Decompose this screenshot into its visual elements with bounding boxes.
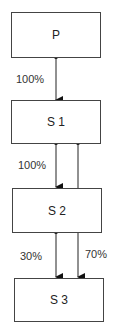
edge-label-s2-s3: 30% (20, 250, 42, 262)
node-s3-label: S 3 (50, 293, 68, 307)
node-s3: S 3 (14, 278, 104, 322)
node-p: P (11, 12, 101, 58)
edge-label-p-s1: 100% (16, 73, 44, 85)
edge-label-s1-s3: 70% (85, 248, 107, 260)
node-s2: S 2 (12, 188, 102, 233)
node-s1-label: S 1 (47, 115, 65, 129)
node-s2-label: S 2 (48, 204, 66, 218)
node-s1: S 1 (11, 100, 101, 144)
node-p-label: P (52, 28, 60, 42)
edge-label-s1-s2: 100% (18, 159, 46, 171)
